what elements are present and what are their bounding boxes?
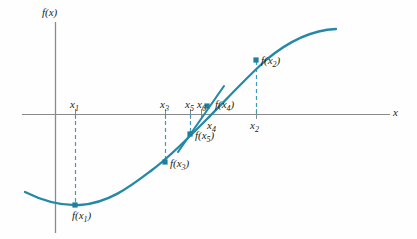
point-f-x3 [162,159,167,164]
tick-label-x5: x5 [185,99,194,110]
x-axis-label: x [393,107,398,118]
y-axis-label: f(x) [42,7,57,18]
point-f-x1 [72,202,77,207]
point-label-f(x2): f(x2) [261,55,280,66]
tick-label-x2: x2 [250,120,259,131]
dashed-dropline-group [76,60,257,205]
point-label-f(x3): f(x3) [170,158,189,169]
point-label-f(x5): f(x5) [195,130,214,141]
math-graph-figure: f(x) x x1x3x5x6x4x2f(x1)f(x3)f(x5)f(x4)f… [0,0,417,239]
point-label-f(x4): f(x4) [215,99,234,110]
tick-label-x1: x1 [70,99,79,110]
tick-label-x6: x6 [197,99,206,110]
point-label-f(x1): f(x1) [72,210,91,221]
point-f-x2 [253,57,258,62]
point-f-x5 [187,131,192,136]
data-point-marker-group [72,57,258,207]
tick-label-x3: x3 [160,99,169,110]
function-curve [25,29,336,205]
